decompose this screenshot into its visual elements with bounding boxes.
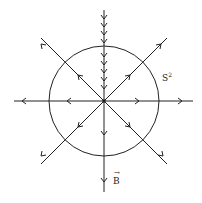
sphere-label-superscript: 2: [168, 71, 172, 78]
field-label-text: B: [113, 176, 120, 186]
monopole-diagram: [0, 0, 202, 203]
sphere-label: S2: [162, 71, 172, 83]
field-label: →B: [113, 176, 120, 186]
vector-arrow-icon: →: [114, 169, 120, 177]
monopole-point: [102, 99, 106, 103]
